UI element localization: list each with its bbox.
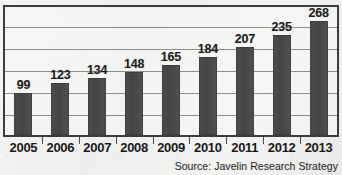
chart-plot-area: 99123134148165184207235268 xyxy=(3,5,339,137)
x-axis-label-2011: 2011 xyxy=(225,140,265,155)
bar-label-2005: 99 xyxy=(3,79,43,92)
bar-label-2011: 207 xyxy=(225,33,265,46)
bar-2006 xyxy=(51,83,69,135)
x-axis-label-2010: 2010 xyxy=(188,140,228,155)
bar-2008 xyxy=(125,72,143,135)
bar-2011 xyxy=(236,47,254,135)
bar-label-2008: 148 xyxy=(114,58,154,71)
bar-2009 xyxy=(162,65,180,135)
bar-label-2010: 184 xyxy=(188,43,228,56)
x-axis-label-2006: 2006 xyxy=(40,140,80,155)
bar-label-2007: 134 xyxy=(77,64,117,77)
x-axis-label-2008: 2008 xyxy=(114,140,154,155)
x-axis-label-2012: 2012 xyxy=(262,140,302,155)
bar-label-2013: 268 xyxy=(299,7,339,20)
x-axis-label-2013: 2013 xyxy=(299,140,339,155)
x-axis: 200520062007200820092010201120122013 xyxy=(3,137,339,157)
bar-2007 xyxy=(88,78,106,135)
bar-2013 xyxy=(310,21,328,135)
bar-label-2012: 235 xyxy=(262,21,302,34)
source-note: Source: Javelin Research Strategy xyxy=(175,160,338,172)
bar-label-2006: 123 xyxy=(40,69,80,82)
bar-label-2009: 165 xyxy=(151,51,191,64)
x-axis-label-2005: 2005 xyxy=(3,140,43,155)
bar-2005 xyxy=(14,93,32,135)
bar-2012 xyxy=(273,35,291,135)
bar-2010 xyxy=(199,57,217,135)
x-axis-label-2007: 2007 xyxy=(77,140,117,155)
x-axis-label-2009: 2009 xyxy=(151,140,191,155)
